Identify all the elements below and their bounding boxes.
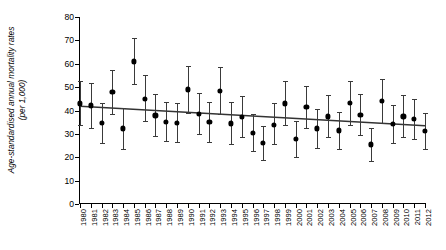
error-bar-cap [207, 102, 212, 103]
error-bar-cap [164, 141, 169, 142]
error-bar-cap [423, 149, 428, 150]
x-tick-label: 1986 [143, 209, 152, 226]
error-bar-cap [132, 84, 137, 85]
error-bar-cap [294, 121, 299, 122]
x-tick-mark [188, 204, 189, 208]
error-bar-cap [197, 93, 202, 94]
error-bar-cap [380, 123, 385, 124]
x-tick-label: 1999 [283, 209, 292, 226]
x-tick-label: 1991 [197, 209, 206, 226]
y-tick-mark [75, 87, 79, 88]
x-tick-mark [102, 204, 103, 208]
x-tick-mark [123, 204, 124, 208]
y-tick-label: 0 [34, 199, 74, 209]
x-tick-label: 1990 [186, 209, 195, 226]
x-tick-label: 2006 [359, 209, 368, 226]
x-tick-label: 1989 [176, 209, 185, 226]
x-tick-label: 2004 [337, 209, 346, 226]
x-tick-label: 1980 [79, 209, 88, 226]
x-tick-label: 1983 [111, 209, 120, 226]
error-bar-cap [186, 113, 191, 114]
error-bar-cap [348, 81, 353, 82]
x-tick-mark [317, 204, 318, 208]
error-bar-cap [240, 137, 245, 138]
y-tick-label: 10 [34, 176, 74, 186]
error-bar-cap [326, 137, 331, 138]
x-tick-label: 1985 [132, 209, 141, 226]
x-tick-mark [403, 204, 404, 208]
error-bar-cap [358, 94, 363, 95]
error-bar-cap [121, 149, 126, 150]
x-tick-mark [177, 204, 178, 208]
x-tick-mark [242, 204, 243, 208]
error-bar-cap [283, 81, 288, 82]
x-tick-mark [134, 204, 135, 208]
x-tick-label: 1998 [273, 209, 282, 226]
error-bar-cap [294, 157, 299, 158]
y-tick-mark [75, 157, 79, 158]
x-tick-mark [166, 204, 167, 208]
error-bar-cap [283, 125, 288, 126]
x-tick-label: 1982 [100, 209, 109, 226]
x-tick-label: 2007 [370, 209, 379, 226]
error-bar-cap [304, 86, 309, 87]
x-tick-mark [306, 204, 307, 208]
chart-figure: Age-standardised annual mortality rates … [0, 0, 446, 250]
error-bar-cap [78, 81, 83, 82]
error-bar-cap [197, 134, 202, 135]
error-bar-cap [369, 161, 374, 162]
error-bar-cap [391, 143, 396, 144]
x-tick-label: 2001 [305, 209, 314, 226]
error-bar-cap [304, 128, 309, 129]
error-bar-cap [164, 102, 169, 103]
error-bar-cap [110, 70, 115, 71]
y-tick-mark [75, 40, 79, 41]
error-bar-cap [348, 125, 353, 126]
x-tick-label: 1987 [154, 209, 163, 226]
x-tick-label: 1984 [122, 209, 131, 226]
error-bar-cap [218, 114, 223, 115]
x-tick-mark [145, 204, 146, 208]
error-bar-cap [175, 142, 180, 143]
x-tick-mark [382, 204, 383, 208]
x-tick-label: 1994 [229, 209, 238, 226]
x-tick-mark [393, 204, 394, 208]
x-tick-label: 2005 [348, 209, 357, 226]
x-tick-mark [339, 204, 340, 208]
y-tick-label: 60 [34, 59, 74, 69]
x-tick-label: 2003 [326, 209, 335, 226]
error-bar-cap [272, 144, 277, 145]
error-bar-cap [337, 112, 342, 113]
x-tick-label: 2011 [413, 209, 422, 225]
y-tick-label: 30 [34, 129, 74, 139]
error-bar-cap [315, 109, 320, 110]
x-tick-mark [155, 204, 156, 208]
error-bar-cap [401, 95, 406, 96]
error-bar-cap [401, 137, 406, 138]
data-point [422, 128, 427, 133]
error-bar-cap [186, 66, 191, 67]
error-bar-cap [337, 149, 342, 150]
error-bar-cap [412, 139, 417, 140]
x-tick-mark [274, 204, 275, 208]
x-tick-label: 2008 [380, 209, 389, 226]
error-bar-cap [326, 95, 331, 96]
x-axis-tick-labels: 1980198119821983198419851986198719881989… [79, 209, 426, 250]
x-tick-mark [296, 204, 297, 208]
x-tick-mark [112, 204, 113, 208]
error-bar-cap [391, 105, 396, 106]
x-tick-mark [285, 204, 286, 208]
error-bar-cap [89, 128, 94, 129]
error-bar-cap [78, 125, 83, 126]
x-tick-label: 2012 [424, 209, 433, 226]
x-tick-label: 2000 [294, 209, 303, 226]
x-tick-mark [91, 204, 92, 208]
error-bar-cap [261, 160, 266, 161]
x-tick-mark [209, 204, 210, 208]
y-tick-label: 50 [34, 82, 74, 92]
x-tick-mark [253, 204, 254, 208]
y-tick-mark [75, 17, 79, 18]
y-tick-mark [75, 134, 79, 135]
x-tick-label: 1996 [251, 209, 260, 226]
trend-line [79, 17, 426, 204]
